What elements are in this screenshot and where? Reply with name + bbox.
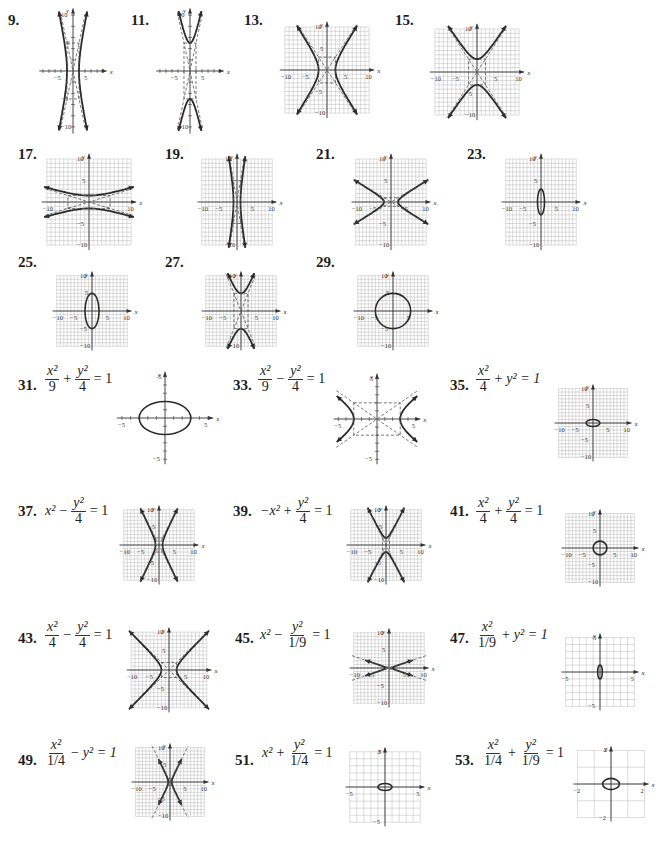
fraction: y²1/9 [520,738,542,768]
x-tick-label: 10 [203,673,210,680]
graph-ellipse: xy−555−5 [344,746,426,828]
x-axis-label: x [426,784,431,792]
x-tick-label: 10 [572,205,579,212]
equation: x²1/4−y² = 1 [45,738,117,768]
problem-number: 11. [131,12,149,29]
graph-hyperbola-x: xy−10−551010−10 [196,152,278,252]
x-tick-label: −5 [149,785,156,792]
x-tick-label: −10 [132,785,142,792]
y-tick-label: −5 [153,455,160,462]
x-axis-label: x [641,669,646,677]
x-tick-label: −5 [334,422,341,429]
x-axis-label: x [422,416,427,424]
equation: x²+y²1/4= 1 [262,738,333,768]
operator: = 1 [94,371,112,387]
y-tick-label: −10 [377,699,387,706]
problem-number: 31. [18,377,37,394]
x-tick-label: −5 [54,74,61,81]
graph-ellipse: xy−10−5510105−5−10 [51,270,133,352]
x-tick-label: −5 [137,548,144,555]
y-tick-label: 5 [382,646,385,653]
x-tick-label: −5 [70,314,77,321]
x-tick-label: 5 [412,422,415,429]
x-tick-label: 5 [255,314,258,321]
x-tick-label: −5 [302,73,309,80]
x-tick-label: 10 [200,785,207,792]
y-tick-label: −2 [599,814,606,821]
graph-hyperbola-x: xy−55105−5−10 [38,6,108,136]
x-tick-label: −10 [555,426,565,433]
x-tick-label: 10 [272,314,279,321]
x-axis-label: x [634,420,639,428]
operator: + [494,503,502,519]
operator: + [276,745,284,761]
problem-number: 41. [450,503,469,520]
y-tick-label: 10 [374,506,381,513]
x-axis-label: x [109,68,114,76]
fraction: y²4 [75,620,89,650]
x-axis-label: x [278,199,283,207]
graph-hyperbola-x: xy−10−5510105−5−10 [130,742,210,822]
fraction: x²9 [258,364,272,394]
y-tick-label: −10 [147,576,157,583]
problem-number: 27. [165,254,184,271]
fraction: x²1/9 [476,620,498,650]
y-tick-label: −5 [315,88,322,95]
x-tick-label: −5 [579,551,586,558]
y-tick-label: −10 [158,812,168,819]
graph-ellipse: xy−10−5510105−5−10 [560,508,640,588]
x-tick-label: 10 [422,205,429,212]
y-tick-label: −5 [377,682,384,689]
operator: = 1 [314,503,332,519]
x-tick-label: 5 [204,421,207,428]
graph-hyperbola-y: xy−10−551010−10 [200,270,282,352]
graph-ellipse: xy−555−5 [560,632,640,712]
x-tick-label: −5 [519,205,526,212]
problem-number: 51. [235,752,254,769]
equation: −x²+y²4= 1 [260,496,333,526]
graph-hyperbola-x: xy−10−5510105−5−10 [278,20,376,120]
x-tick-label: 10 [623,426,630,433]
x-axis-label: x [651,781,656,789]
x-tick-label: 5 [184,673,187,680]
graph-hyperbola-x: xy−10−5510105−5−10 [348,627,430,709]
fraction: y²4 [288,364,302,394]
x-tick-label: 10 [127,205,134,212]
fraction: y²4 [71,496,85,526]
x-axis-label: x [282,308,287,316]
y-tick-label: 10 [157,628,164,635]
x-tick-label: −5 [146,673,153,680]
y-tick-label: −5 [529,220,536,227]
problem-number: 53. [455,752,474,769]
y-tick-label: 10 [379,155,386,162]
x-axis-label: x [526,69,531,77]
fraction: y²1/9 [286,620,308,650]
y-tick-label: 2 [604,746,607,753]
equation: x²9+y²4= 1 [45,364,112,394]
axes: xy−5510−10 [156,7,230,133]
y-tick-label: −5 [80,325,87,332]
y-tick-label: −5 [77,220,84,227]
fraction: y²4 [506,496,520,526]
x-tick-label: −10 [431,75,441,82]
y-tick-label: −10 [381,342,391,349]
operator: − [59,503,67,519]
x-tick-label: 10 [190,548,197,555]
graph-ellipse: xy−10−5510105−5−10 [553,383,633,463]
problem-number: 25. [18,254,37,271]
x-tick-label: 5 [251,205,254,212]
y-tick-label: −10 [465,111,475,118]
y-tick-label: −5 [373,818,380,825]
equation: x²9−y²4= 1 [258,364,325,394]
operator: = 1 [525,503,543,519]
x-axis-label: x [641,545,646,553]
y-tick-label: −5 [588,561,595,568]
graph-hyperbola-y: xy−10−5510105−5−10 [345,504,427,586]
x-tick-label: −10 [354,314,364,321]
axes: xy−555−5 [117,371,220,464]
y-tick-label: 10 [377,629,384,636]
graph-hyperbola-x: xy−10−5510105−5−10 [118,504,200,586]
y-tick-label: 5 [593,527,596,534]
x-tick-label: 10 [420,671,427,678]
equation: x²1/9+y² = 1 [476,620,548,650]
